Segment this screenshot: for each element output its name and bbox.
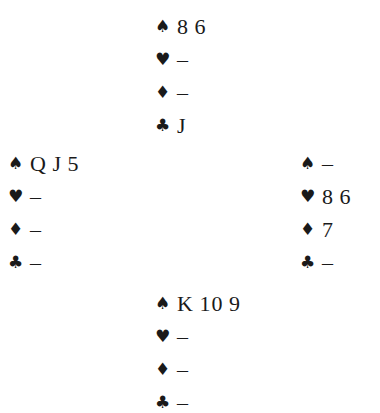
spade-icon: ♠	[300, 147, 322, 180]
club-icon: ♣	[300, 246, 322, 279]
north-hand: ♠ 8 6 ♥ – ♦ – ♣ J	[155, 10, 207, 142]
east-clubs-row: ♣ –	[300, 246, 352, 279]
club-icon: ♣	[155, 109, 177, 142]
heart-icon: ♥	[155, 320, 177, 353]
spade-icon: ♠	[155, 10, 177, 43]
club-icon: ♣	[8, 246, 30, 279]
east-spades-cards: –	[322, 147, 334, 180]
north-diamonds-cards: –	[177, 76, 189, 109]
north-hearts-cards: –	[177, 43, 189, 76]
north-hearts-row: ♥ –	[155, 43, 207, 76]
spade-icon: ♠	[8, 147, 30, 180]
spade-icon: ♠	[155, 287, 177, 320]
west-diamonds-row: ♦ –	[8, 213, 79, 246]
east-hand: ♠ – ♥ 8 6 ♦ 7 ♣ –	[300, 147, 352, 279]
west-spades-row: ♠ Q J 5	[8, 147, 79, 180]
north-spades-cards: 8 6	[177, 10, 207, 43]
east-clubs-cards: –	[322, 246, 334, 279]
diamond-icon: ♦	[300, 213, 322, 246]
east-hearts-row: ♥ 8 6	[300, 180, 352, 213]
north-spades-row: ♠ 8 6	[155, 10, 207, 43]
west-spades-cards: Q J 5	[30, 147, 79, 180]
west-hand: ♠ Q J 5 ♥ – ♦ – ♣ –	[8, 147, 79, 279]
south-hearts-row: ♥ –	[155, 320, 241, 353]
south-spades-cards: K 10 9	[177, 287, 241, 320]
south-clubs-cards: –	[177, 386, 189, 413]
west-hearts-cards: –	[30, 180, 42, 213]
west-clubs-cards: –	[30, 246, 42, 279]
east-diamonds-cards: 7	[322, 213, 334, 246]
south-clubs-row: ♣ –	[155, 386, 241, 413]
south-diamonds-row: ♦ –	[155, 353, 241, 386]
south-spades-row: ♠ K 10 9	[155, 287, 241, 320]
heart-icon: ♥	[155, 43, 177, 76]
heart-icon: ♥	[300, 180, 322, 213]
club-icon: ♣	[155, 386, 177, 413]
south-diamonds-cards: –	[177, 353, 189, 386]
east-hearts-cards: 8 6	[322, 180, 352, 213]
east-spades-row: ♠ –	[300, 147, 352, 180]
diamond-icon: ♦	[155, 353, 177, 386]
west-hearts-row: ♥ –	[8, 180, 79, 213]
north-diamonds-row: ♦ –	[155, 76, 207, 109]
north-clubs-cards: J	[177, 109, 187, 142]
south-hand: ♠ K 10 9 ♥ – ♦ – ♣ –	[155, 287, 241, 413]
diamond-icon: ♦	[155, 76, 177, 109]
east-diamonds-row: ♦ 7	[300, 213, 352, 246]
west-diamonds-cards: –	[30, 213, 42, 246]
north-clubs-row: ♣ J	[155, 109, 207, 142]
west-clubs-row: ♣ –	[8, 246, 79, 279]
diamond-icon: ♦	[8, 213, 30, 246]
south-hearts-cards: –	[177, 320, 189, 353]
heart-icon: ♥	[8, 180, 30, 213]
